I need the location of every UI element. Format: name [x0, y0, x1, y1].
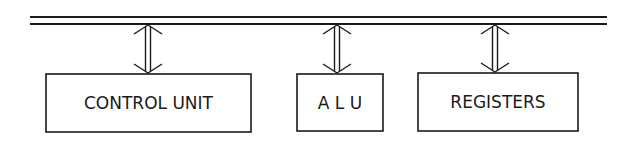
block-registers: REGISTERS	[418, 73, 578, 131]
system-bus	[30, 17, 607, 24]
bidirectional-arrow-icon	[323, 25, 351, 73]
block-label: REGISTERS	[450, 92, 545, 112]
block-label: CONTROL UNIT	[84, 93, 214, 113]
bidirectional-arrow-icon	[481, 25, 509, 72]
block-label: A L U	[318, 93, 362, 113]
bidirectional-arrow-icon	[134, 25, 162, 73]
block-alu: A L U	[297, 74, 383, 131]
bus-connections	[134, 25, 509, 73]
cpu-blocks: CONTROL UNITA L UREGISTERS	[46, 73, 578, 132]
cpu-bus-diagram: CONTROL UNITA L UREGISTERS	[0, 0, 639, 142]
block-control-unit: CONTROL UNIT	[46, 74, 251, 132]
